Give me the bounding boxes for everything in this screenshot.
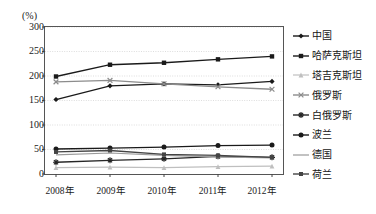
legend: 中国哈萨克斯坦塔吉克斯坦俄罗斯白俄罗斯波兰德国荷兰 [292, 26, 376, 184]
marker-circle [216, 143, 221, 148]
legend-marker-star-icon [292, 109, 310, 121]
marker-diamond [298, 33, 303, 38]
legend-item-1[interactable]: 哈萨克斯坦 [292, 46, 376, 66]
marker-diamond [53, 97, 58, 102]
legend-marker-cross-icon [292, 89, 310, 101]
legend-item-0[interactable]: 中国 [292, 26, 376, 46]
legend-marker-square-icon [292, 50, 310, 62]
series-lines [53, 54, 275, 170]
marker-star [53, 159, 59, 165]
line-chart-figure: (%) 300 250 200 150 100 50 0 2008年 2009年… [0, 0, 376, 214]
marker-diamond [269, 79, 274, 84]
marker-small-square [108, 148, 112, 152]
marker-diamond [107, 83, 112, 88]
series-1 [54, 54, 274, 78]
legend-item-3[interactable]: 俄罗斯 [292, 85, 376, 105]
legend-label: 塔吉克斯坦 [312, 70, 362, 81]
legend-item-2[interactable]: 塔吉克斯坦 [292, 66, 376, 86]
marker-small-square [54, 150, 58, 154]
legend-marker-circle-icon [292, 129, 310, 141]
plot-frame [45, 27, 284, 175]
marker-small-square [216, 153, 220, 157]
legend-item-6[interactable]: 德国 [292, 145, 376, 165]
marker-square [270, 54, 274, 58]
legend-marker-small-square-icon [292, 168, 310, 180]
legend-marker-diamond-icon [292, 30, 310, 42]
marker-star [161, 156, 167, 162]
legend-marker-line-icon [292, 149, 310, 161]
marker-square [216, 57, 220, 61]
legend-label: 荷兰 [312, 169, 332, 180]
legend-label: 白俄罗斯 [312, 110, 352, 121]
legend-label: 哈萨克斯坦 [312, 50, 362, 61]
marker-square [162, 61, 166, 65]
marker-star [298, 112, 304, 118]
series-2 [54, 164, 275, 170]
marker-square [299, 53, 303, 57]
marker-small-square [162, 152, 166, 156]
legend-item-7[interactable]: 荷兰 [292, 165, 376, 185]
legend-label: 中国 [312, 30, 332, 41]
legend-marker-triangle-icon [292, 69, 310, 81]
marker-square [108, 63, 112, 67]
marker-small-square [299, 172, 303, 176]
series-line [56, 56, 272, 76]
marker-small-square [270, 155, 274, 159]
marker-circle [270, 143, 275, 148]
legend-item-4[interactable]: 白俄罗斯 [292, 105, 376, 125]
marker-square [54, 74, 58, 78]
marker-circle [162, 145, 167, 150]
series-5 [54, 143, 275, 152]
legend-item-5[interactable]: 波兰 [292, 125, 376, 145]
marker-star [107, 157, 113, 163]
series-0 [53, 79, 274, 102]
legend-label: 俄罗斯 [312, 90, 342, 101]
legend-label: 波兰 [312, 129, 332, 140]
legend-label: 德国 [312, 149, 332, 160]
marker-circle [299, 132, 304, 137]
